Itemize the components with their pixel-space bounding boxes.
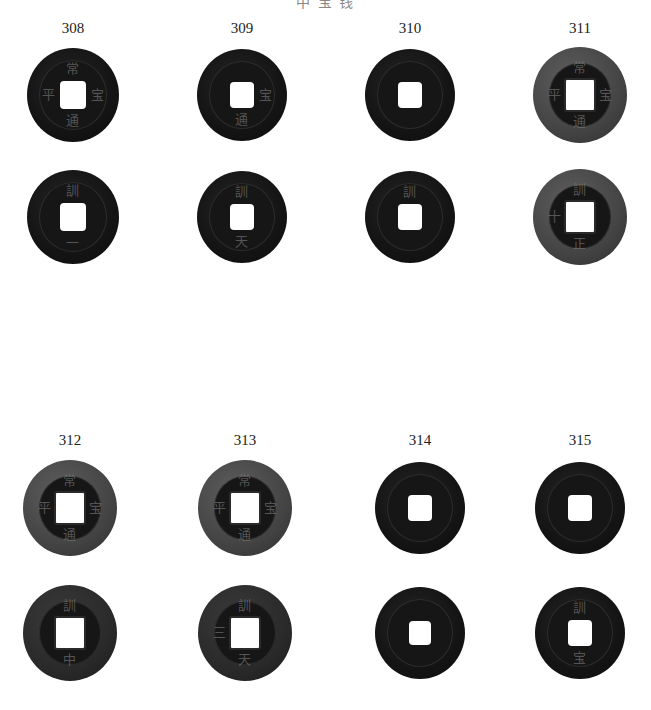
coin-inscription-character: 訓 xyxy=(573,183,586,196)
coin-inscription-character: 宝 xyxy=(264,501,277,514)
square-hole xyxy=(231,493,259,523)
coin-image-312-obverse: 常平通宝 xyxy=(23,460,117,556)
square-hole xyxy=(398,82,422,108)
coin-inscription-character: 一 xyxy=(66,236,79,249)
square-hole xyxy=(56,493,84,523)
coin-inscription-character: 通 xyxy=(235,113,248,126)
coin-image-312-reverse: 訓中 xyxy=(23,585,117,681)
coin-image-310-reverse: 訓 xyxy=(365,171,455,263)
square-hole xyxy=(398,204,422,230)
coin-inscription-character: 天 xyxy=(238,653,251,666)
coin-inscription-character: 訓 xyxy=(235,185,248,198)
coin-image-313-obverse: 常平通宝 xyxy=(198,460,292,556)
coin-number-label: 310 xyxy=(380,20,440,37)
coin-image-313-reverse: 訓三天 xyxy=(198,585,292,681)
coin-inscription-character: 十 xyxy=(548,210,561,223)
square-hole xyxy=(408,495,432,521)
coin-inscription-character: 正 xyxy=(573,237,586,250)
coin-inscription-character: 宝 xyxy=(89,501,102,514)
coin-image-308-obverse: 常平通宝 xyxy=(27,48,119,142)
coin-number-label: 311 xyxy=(550,20,610,37)
coin-inscription-character: 常 xyxy=(238,474,251,487)
coin-inscription-character: 通 xyxy=(573,115,586,128)
coin-inscription-character: 通 xyxy=(238,528,251,541)
square-hole xyxy=(568,495,592,521)
coin-inscription-character: 訓 xyxy=(573,601,586,614)
coin-inscription-character: 中 xyxy=(63,653,76,666)
square-hole xyxy=(56,618,84,648)
coin-inscription-character: 三 xyxy=(213,626,226,639)
coin-image-308-reverse: 訓一 xyxy=(27,170,119,264)
coin-inscription-character: 平 xyxy=(42,88,55,101)
coin-image-310-obverse xyxy=(365,49,455,141)
coin-inscription-character: 通 xyxy=(63,528,76,541)
square-hole xyxy=(60,203,86,231)
coin-inscription-character: 宝 xyxy=(91,88,104,101)
coin-inscription-character: 天 xyxy=(235,235,248,248)
coin-number-label: 312 xyxy=(40,432,100,449)
square-hole xyxy=(568,620,592,646)
coin-image-315-obverse xyxy=(535,462,625,554)
square-hole xyxy=(231,618,259,648)
coin-number-label: 308 xyxy=(43,20,103,37)
coin-image-315-reverse: 訓宝 xyxy=(535,587,625,679)
square-hole xyxy=(230,82,254,108)
coin-image-311-obverse: 常平通宝 xyxy=(533,47,627,143)
coin-number-label: 313 xyxy=(215,432,275,449)
coin-image-309-reverse: 訓天 xyxy=(197,171,287,263)
square-hole xyxy=(409,621,431,645)
square-hole xyxy=(566,202,594,232)
coin-inscription-character: 平 xyxy=(213,501,226,514)
coin-number-label: 309 xyxy=(212,20,272,37)
square-hole xyxy=(60,81,86,109)
coin-image-314-reverse xyxy=(375,587,465,679)
coin-inscription-character: 常 xyxy=(66,62,79,75)
square-hole xyxy=(566,80,594,110)
coin-inscription-character: 平 xyxy=(38,501,51,514)
coin-number-label: 314 xyxy=(390,432,450,449)
square-hole xyxy=(230,204,254,230)
coin-inscription-character: 訓 xyxy=(238,599,251,612)
coin-inscription-character: 訓 xyxy=(63,599,76,612)
coin-image-311-reverse: 訓十正 xyxy=(533,169,627,265)
coin-inscription-character: 平 xyxy=(548,88,561,101)
coin-inscription-character: 訓 xyxy=(403,185,416,198)
coin-image-309-obverse: 通宝 xyxy=(197,49,287,141)
coin-number-label: 315 xyxy=(550,432,610,449)
coin-inscription-character: 常 xyxy=(63,474,76,487)
coin-inscription-character: 宝 xyxy=(259,88,272,101)
coin-inscription-character: 宝 xyxy=(599,88,612,101)
coin-inscription-character: 常 xyxy=(573,61,586,74)
coin-image-314-obverse xyxy=(375,462,465,554)
coin-inscription-character: 宝 xyxy=(573,651,586,664)
coin-inscription-character: 通 xyxy=(66,114,79,127)
page-header: 中 宝 钱 xyxy=(0,0,651,11)
coin-inscription-character: 訓 xyxy=(66,184,79,197)
